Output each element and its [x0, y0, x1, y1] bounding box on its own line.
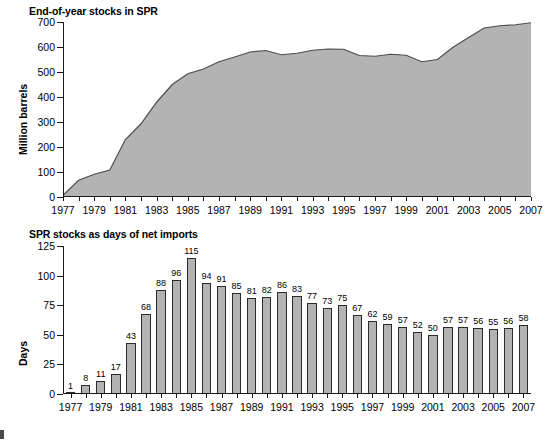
area-x-tick-label: 1999 [395, 204, 418, 216]
area-y-tick-label: 300 [9, 116, 55, 128]
area-x-tick [297, 197, 298, 201]
bar-x-tick [312, 394, 313, 398]
bar [202, 283, 211, 394]
bar-y-tick-label: 50 [9, 329, 55, 341]
area-y-tick [57, 97, 63, 98]
area-x-tick [500, 197, 501, 201]
bar-x-tick [282, 394, 283, 398]
area-x-tick-label: 1997 [363, 204, 386, 216]
bar-x-tick [116, 394, 117, 398]
area-x-tick [531, 197, 532, 201]
area-y-tick-label: 0 [9, 191, 55, 203]
bar-x-tick [101, 394, 102, 398]
bar [232, 293, 241, 394]
bar [126, 343, 135, 394]
bar-x-tick-label: 1993 [300, 401, 323, 413]
bar-x-tick [86, 394, 87, 398]
bar-value-label: 8 [83, 373, 88, 383]
bar-value-label: 96 [171, 268, 181, 278]
bar-y-tick [57, 394, 63, 395]
bar [111, 374, 120, 394]
area-y-tick-label: 200 [9, 141, 55, 153]
bar [217, 286, 226, 394]
area-x-tick-label: 1989 [239, 204, 262, 216]
bar [262, 297, 271, 394]
bar-x-tick [176, 394, 177, 398]
area-x-tick-label: 1995 [332, 204, 355, 216]
bar-y-tick-label: 75 [9, 299, 55, 311]
area-y-tick-label: 100 [9, 166, 55, 178]
bar-chart-panel: SPR stocks as days of net imports Days 1… [0, 226, 548, 442]
bar [338, 305, 347, 394]
bar [519, 325, 528, 394]
area-y-tick-label: 500 [9, 66, 55, 78]
bar-value-label: 88 [156, 278, 166, 288]
spr-stocks-figure: End-of-year stocks in SPR Million barrel… [0, 0, 548, 442]
bar-x-tick [372, 394, 373, 398]
area-y-tick [57, 47, 63, 48]
area-x-tick-label: 1993 [301, 204, 324, 216]
bar-x-tick-label: 2007 [512, 401, 535, 413]
bar-value-label: 68 [141, 302, 151, 312]
bar-x-tick [478, 394, 479, 398]
bar [141, 314, 150, 395]
bar-x-tick [267, 394, 268, 398]
bar-x-tick [237, 394, 238, 398]
area-x-tick [437, 197, 438, 201]
bar-y-tick-label: 0 [9, 388, 55, 400]
bar-value-label: 17 [111, 362, 121, 372]
bar-x-tick [206, 394, 207, 398]
area-x-tick [157, 197, 158, 201]
bar-y-tick [57, 335, 63, 336]
bar-x-tick-label: 1991 [270, 401, 293, 413]
bar-x-tick [161, 394, 162, 398]
bar-x-tick-label: 1997 [361, 401, 384, 413]
bar [458, 327, 467, 394]
bar [187, 258, 196, 394]
bar-value-label: 59 [383, 312, 393, 322]
area-plot-area: 0100200300400500600700 19771979198119831… [63, 22, 531, 197]
bar-y-tick-label: 100 [9, 270, 55, 282]
bar-value-label: 115 [184, 246, 198, 256]
area-x-tick-label: 1987 [207, 204, 230, 216]
bar-x-tick [418, 394, 419, 398]
bar-value-label: 50 [428, 323, 438, 333]
bar-y-tick [57, 276, 63, 277]
area-x-tick [141, 197, 142, 201]
bar-x-tick [131, 394, 132, 398]
bar-value-label: 62 [367, 309, 377, 319]
bar [489, 329, 498, 394]
area-x-tick-label: 1985 [176, 204, 199, 216]
area-x-tick [406, 197, 407, 201]
bar-value-label: 77 [307, 291, 317, 301]
bar-x-tick-label: 1999 [391, 401, 414, 413]
area-y-tick-label: 400 [9, 91, 55, 103]
bar-value-label: 91 [217, 274, 227, 284]
bar-value-label: 57 [458, 315, 468, 325]
bar-value-label: 52 [413, 320, 423, 330]
area-series [63, 22, 531, 197]
bar-x-tick [403, 394, 404, 398]
bar-y-tick [57, 364, 63, 365]
bar-x-tick-label: 1995 [331, 401, 354, 413]
bar [323, 308, 332, 394]
bar-x-tick [508, 394, 509, 398]
bar-value-label: 11 [96, 369, 105, 379]
bar-x-tick [252, 394, 253, 398]
area-x-tick [313, 197, 314, 201]
area-x-tick [453, 197, 454, 201]
bar [504, 328, 513, 394]
bar-value-label: 55 [488, 317, 498, 327]
bar-value-label: 75 [337, 293, 347, 303]
bar-x-tick-label: 1979 [89, 401, 112, 413]
bar-value-label: 56 [503, 316, 513, 326]
bar-series: 1811174368889611594918581828683777375676… [63, 246, 531, 394]
bar-value-label: 83 [292, 284, 302, 294]
bar-value-label: 85 [232, 281, 242, 291]
area-x-tick [203, 197, 204, 201]
bar-value-label: 94 [201, 271, 211, 281]
area-x-tick [266, 197, 267, 201]
area-x-tick [469, 197, 470, 201]
area-x-tick-label: 1977 [51, 204, 74, 216]
area-x-tick [63, 197, 64, 201]
